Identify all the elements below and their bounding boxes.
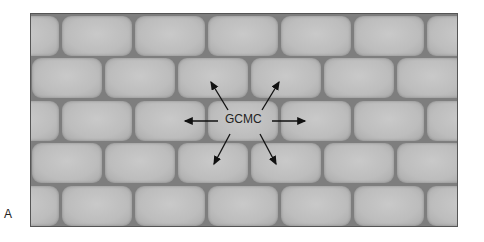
gcmc-label: GCMC xyxy=(225,112,261,126)
panel-label: A xyxy=(4,207,12,221)
arrow-down-right-icon xyxy=(260,134,276,164)
arrow-up-right-icon xyxy=(262,82,279,110)
arrow-up-left-icon xyxy=(211,82,228,110)
arrow-down-left-icon xyxy=(214,134,230,164)
